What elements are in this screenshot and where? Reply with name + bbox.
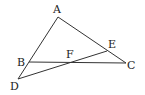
segment-bc <box>29 62 126 63</box>
geometry-diagram: A B C D E F <box>0 0 145 95</box>
label-a: A <box>52 3 62 16</box>
segment-de <box>18 51 107 79</box>
label-e: E <box>108 38 116 51</box>
label-b: B <box>17 56 25 69</box>
label-d: D <box>10 80 19 93</box>
label-f: F <box>66 48 74 61</box>
label-c: C <box>127 59 135 72</box>
segment-ad <box>18 17 58 79</box>
